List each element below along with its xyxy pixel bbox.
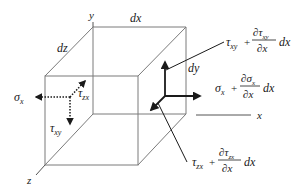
sigma-x-right-expression: σx + ∂σx ∂x dx — [215, 72, 275, 100]
svg-text:∂τzx: ∂τzx — [219, 146, 235, 161]
stress-element-diagram: y z x dx dz dy σx τzx τxy τxy + ∂τxy ∂x … — [0, 0, 298, 192]
cube-depth-bottom-right — [138, 114, 186, 165]
cube-front-face — [45, 76, 138, 165]
leader-lines — [158, 42, 224, 162]
y-axis-label: y — [88, 9, 94, 21]
diagram-canvas: y z x dx dz dy σx τzx τxy τxy + ∂τxy ∂x … — [0, 0, 298, 192]
tau-zx-left-label: τzx — [78, 86, 89, 102]
cube-depth-top-right — [138, 27, 186, 76]
svg-text:+: + — [209, 156, 215, 168]
svg-text:∂τxy: ∂τxy — [253, 26, 269, 41]
dx-label: dx — [130, 11, 142, 25]
x-axis-label: x — [256, 109, 262, 121]
svg-text:∂x: ∂x — [257, 42, 267, 54]
tau-xy-right-expression: τxy + ∂τxy ∂x dx — [226, 26, 291, 54]
tau-zx-right-expression: τzx + ∂τzx ∂x dx — [192, 146, 256, 174]
dy-label: dy — [188, 61, 200, 75]
svg-text:+: + — [231, 82, 237, 94]
svg-text:τzx: τzx — [192, 155, 203, 171]
svg-text:dx: dx — [263, 81, 275, 95]
svg-text:+: + — [244, 36, 250, 48]
svg-text:∂σx: ∂σx — [241, 72, 256, 87]
svg-text:σx: σx — [215, 81, 225, 97]
svg-text:dx: dx — [244, 155, 256, 169]
svg-text:dx: dx — [279, 35, 291, 49]
tau-xy-left-label: τxy — [50, 121, 62, 137]
z-axis-label: z — [26, 174, 32, 186]
svg-text:∂x: ∂x — [222, 162, 232, 174]
svg-text:∂x: ∂x — [243, 88, 253, 100]
cube-depth-top-left — [45, 27, 93, 76]
tau-zx-leader — [158, 103, 187, 162]
svg-text:τxy: τxy — [226, 35, 238, 51]
dz-label: dz — [57, 41, 68, 55]
z-axis-line — [36, 165, 45, 175]
sigma-x-left-label: σx — [14, 90, 24, 106]
